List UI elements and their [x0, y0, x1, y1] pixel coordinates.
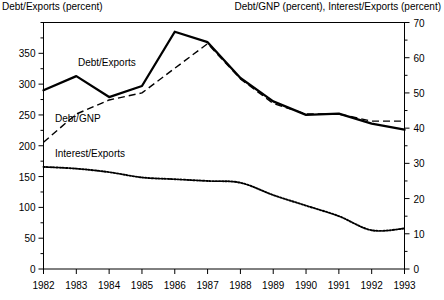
left-axis-ticklabel: 0: [30, 264, 36, 275]
right-axis-ticklabel: 50: [414, 88, 426, 99]
right-axis-ticks: [405, 23, 410, 270]
left-axis-ticklabel: 50: [24, 233, 36, 244]
x-axis-ticklabel: 1983: [65, 280, 88, 291]
x-axis-ticklabel: 1982: [32, 280, 55, 291]
x-axis-ticklabels: 1982198319841985198619871988198919901991…: [32, 280, 416, 291]
x-axis-ticklabel: 1987: [196, 280, 219, 291]
right-axis-ticklabel: 30: [414, 158, 426, 169]
left-axis-ticklabel: 250: [19, 110, 36, 121]
line-chart-plot: 050100150200250300350 010203040506070 19…: [0, 0, 444, 300]
right-axis-ticklabel: 10: [414, 229, 426, 240]
left-axis-ticklabel: 100: [19, 202, 36, 213]
x-axis-ticklabel: 1984: [98, 280, 121, 291]
left-axis-ticklabels: 050100150200250300350: [19, 48, 36, 275]
x-axis-ticklabel: 1988: [229, 280, 252, 291]
series-line-interest-exports: [44, 167, 405, 231]
left-axis-ticklabel: 150: [19, 172, 36, 183]
series-label-debt-exports: Debt/Exports: [78, 57, 136, 68]
right-axis-ticklabel: 60: [414, 53, 426, 64]
right-axis-ticklabels: 010203040506070: [414, 18, 426, 276]
right-axis-ticklabel: 40: [414, 123, 426, 134]
x-axis-ticks: [44, 269, 405, 274]
x-axis-ticklabel: 1991: [328, 280, 351, 291]
right-axis-ticklabel: 0: [414, 264, 420, 275]
x-axis-ticklabel: 1989: [262, 280, 285, 291]
x-axis-ticklabel: 1992: [361, 280, 384, 291]
x-axis-ticklabel: 1985: [131, 280, 154, 291]
x-axis-ticklabel: 1990: [295, 280, 318, 291]
chart-container: Debt/Exports (percent) Debt/GNP (percent…: [0, 0, 444, 300]
right-axis-ticklabel: 70: [414, 18, 426, 29]
series-label-interest-exports: Interest/Exports: [55, 148, 125, 159]
x-axis-ticklabel: 1986: [164, 280, 187, 291]
left-axis-ticklabel: 200: [19, 141, 36, 152]
series-inline-labels: Debt/ExportsDebt/GNPInterest/Exports: [55, 57, 136, 159]
series-label-debt-gnp: Debt/GNP: [55, 113, 101, 124]
left-axis-ticks: [39, 23, 44, 270]
left-axis-ticklabel: 300: [19, 79, 36, 90]
left-axis-ticklabel: 350: [19, 48, 36, 59]
x-axis-ticklabel: 1993: [393, 280, 416, 291]
right-axis-ticklabel: 20: [414, 194, 426, 205]
